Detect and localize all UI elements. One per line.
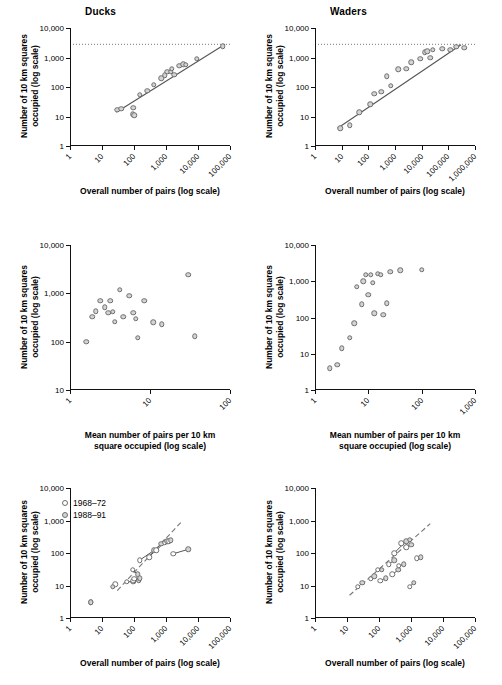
panel-f-data-point-1968 [390, 572, 396, 578]
panel-b-data-point [430, 47, 436, 53]
panel-e-ytick-mark [66, 521, 70, 522]
panel-d-data-point [398, 268, 404, 274]
panel-c-data-point [84, 339, 90, 345]
panel-d-data-point [388, 269, 394, 275]
panel-e-data-point-1968 [147, 554, 153, 560]
panel-a-y-axis-label: Number of 10 km squares occupied (log sc… [19, 21, 41, 151]
panel-e-xtick-mark [166, 618, 167, 622]
panel-e-data-point-1968 [154, 548, 160, 554]
panel-b-ytick-mark [311, 117, 315, 118]
panel-c-ytick-mark [66, 245, 70, 246]
panel-b-data-point [408, 59, 414, 65]
panel-e-x-axis-label: Overall number of pairs (log scale) [55, 658, 245, 669]
panel-d-data-point [354, 284, 360, 290]
panel-a-data-point [151, 82, 157, 88]
panel-c-ytick-label: 10 [30, 386, 64, 395]
panel-a-data-point [119, 106, 125, 112]
panel-c-ytick-mark [66, 293, 70, 294]
panel-d-data-point [366, 292, 372, 298]
panel-c-ytick-mark [66, 342, 70, 343]
panel-d-ytick-mark [311, 281, 315, 282]
panel-b-data-point [388, 83, 394, 89]
panel-b-ytick-mark [311, 58, 315, 59]
panel-c-data-point [98, 298, 104, 304]
panel-d-data-point [380, 312, 386, 318]
panel-b-xtick-mark [315, 146, 316, 150]
panel-e-ytick-mark [66, 586, 70, 587]
panel-a-ytick-mark [66, 87, 70, 88]
panel-c-xtick-mark [70, 390, 71, 394]
panel-f-data-point-1988 [418, 554, 424, 560]
panel-c-data-point [90, 314, 96, 320]
panel-b-data-point [454, 44, 460, 50]
panel-b-xtick-mark [395, 146, 396, 150]
panel-a-data-point [169, 66, 175, 72]
panel-a-title: Ducks [85, 6, 116, 17]
panel-a-data-point [131, 113, 137, 119]
panel-d-data-point [378, 272, 384, 278]
panel-b-data-point [448, 47, 454, 53]
panel-f-y-axis-label: Number of 10 km squares occupied (log sc… [264, 487, 286, 617]
panel-f-ytick-mark [311, 586, 315, 587]
panel-b-data-point [384, 74, 390, 80]
panel-c-data-point [110, 309, 116, 315]
panel-d-xtick-mark [475, 390, 476, 394]
panel-d-data-point [334, 362, 340, 368]
panel-f-ytick-mark [311, 553, 315, 554]
panel-e-y-axis-label: Number of 10 km squares occupied (log sc… [19, 487, 41, 617]
panel-f-xtick-mark [347, 618, 348, 622]
panel-b-xtick-mark [422, 146, 423, 150]
panel-e-xtick-mark [102, 618, 103, 622]
panel-a-ytick-mark [66, 58, 70, 59]
panel-b-title: Waders [330, 6, 367, 17]
legend-open-marker-icon [62, 500, 68, 506]
panel-f-xtick-mark [315, 618, 316, 622]
panel-a-xtick-mark [102, 146, 103, 150]
panel-b-ytick-mark [311, 28, 315, 29]
panel-a-xtick-mark [166, 146, 167, 150]
panel-f-data-point-1968 [386, 562, 392, 568]
panel-e-xtick-mark [198, 618, 199, 622]
panel-a-ytick-mark [66, 28, 70, 29]
panel-d-ytick-label: 1 [275, 386, 309, 395]
panel-a-xtick-mark [230, 146, 231, 150]
panel-d-data-point [347, 335, 353, 341]
panel-c-data-point [159, 321, 165, 327]
panel-f-data-point-1988 [392, 557, 398, 563]
panel-a-data-point [145, 88, 151, 94]
panel-f-xtick-mark [379, 618, 380, 622]
panel-d-plot-area [315, 245, 475, 390]
panel-e-ytick-mark [66, 488, 70, 489]
panel-c-data-point [117, 287, 123, 293]
panel-f-data-point-1988 [411, 580, 417, 586]
panel-c-data-point [131, 310, 137, 316]
panel-f-data-point-1988 [401, 562, 407, 568]
figure-page: Ducks Waders 1968–72 1988–91 1101001,000… [0, 0, 502, 685]
panel-d-ytick-label: 10,000 [275, 241, 309, 250]
panel-b-data-point [403, 66, 409, 72]
panel-b-data-point [356, 109, 362, 115]
panel-c-data-point [142, 298, 148, 304]
panel-d-data-point [370, 280, 376, 286]
panel-e-data-point-1968 [137, 557, 143, 563]
panel-c-data-point [192, 333, 198, 339]
panel-f-xtick-mark [475, 618, 476, 622]
panel-a-data-point [171, 72, 177, 78]
panel-c-y-axis-label: Number of 10 km squares occupied (log sc… [19, 252, 41, 382]
panel-e-data-point-1988 [137, 575, 143, 581]
panel-d-y-axis-label: Number of 10 km squares occupied (log sc… [264, 252, 286, 382]
panel-c-xtick-mark [230, 390, 231, 394]
panel-d-ytick-mark [311, 354, 315, 355]
panel-a-data-point [183, 62, 189, 68]
panel-f-x-axis-label: Overall number of pairs (log scale) [300, 658, 490, 669]
panel-a-xtick-mark [198, 146, 199, 150]
panel-e-xtick-mark [134, 618, 135, 622]
panel-c-data-point [112, 319, 118, 325]
panel-c-xtick-mark [150, 390, 151, 394]
panel-a-x-axis-label: Overall number of pairs (log scale) [55, 186, 245, 197]
panel-b-x-axis-label: Overall number of pairs (log scale) [300, 186, 490, 197]
panel-d-ytick-mark [311, 318, 315, 319]
panel-e-data-point-1988 [186, 547, 192, 553]
panel-b-xtick-mark [368, 146, 369, 150]
panel-d-data-point [372, 311, 378, 317]
